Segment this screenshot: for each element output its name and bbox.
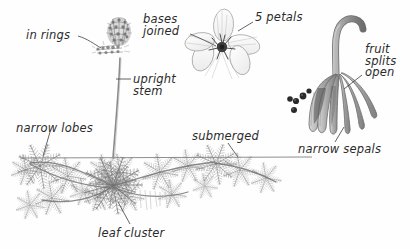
annotation-narrow-sepals: narrow sepals xyxy=(298,144,381,156)
fruit-illustration xyxy=(287,19,377,134)
upright-stem-line xyxy=(113,58,120,158)
annotation-bases-joined: bases joined xyxy=(143,14,179,37)
seeds xyxy=(287,88,311,113)
annotation-leaf-cluster: leaf cluster xyxy=(98,228,165,240)
flower-head-upper xyxy=(106,18,132,46)
flower-spike-illustration xyxy=(92,18,132,158)
five-petal-flower-illustration xyxy=(183,8,261,79)
annotation-five-petals: 5 petals xyxy=(255,12,303,24)
annotation-upright-stem: upright stem xyxy=(133,74,176,97)
annotation-submerged: submerged xyxy=(192,131,259,143)
annotation-in-rings: in rings xyxy=(26,30,70,42)
botanical-illustration: in rings bases joined 5 petals upright s… xyxy=(0,0,410,249)
annotation-narrow-lobes: narrow lobes xyxy=(16,123,93,135)
annotation-fruit-splits-open: fruit splits open xyxy=(365,44,396,79)
leader-in-rings xyxy=(78,36,101,48)
leader-submerged xyxy=(228,143,238,157)
waterline xyxy=(20,157,312,158)
submerged-foliage-illustration xyxy=(10,142,282,220)
leader-narrow-lobes xyxy=(43,132,50,156)
leader-five-petals xyxy=(238,22,253,31)
